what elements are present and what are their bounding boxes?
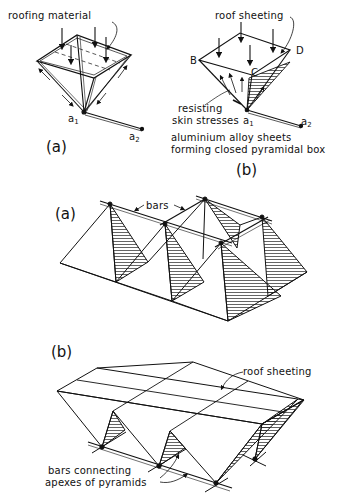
top-figure-a	[37, 22, 144, 131]
point-a1-label-b: a1	[243, 115, 254, 128]
vertex-d-label: D	[296, 45, 304, 56]
description-line1: aluminium alloy sheets	[171, 132, 291, 143]
caption-middle-a: (a)	[55, 205, 76, 223]
caption-bottom-b: (b)	[51, 343, 72, 361]
roof-sheeting-label-bottom: roof sheeting	[243, 366, 312, 377]
vertex-b-label: B	[190, 55, 197, 66]
resisting-label-line1: resisting	[178, 103, 222, 114]
bars-connecting-label-line1: bars connecting	[48, 465, 131, 476]
point-a2-label: a2	[129, 131, 140, 144]
roofing-material-label: roofing material	[8, 10, 91, 21]
caption-top-b: (b)	[236, 161, 257, 179]
description-line2: forming closed pyramidal box	[171, 144, 325, 155]
bars-connecting-label-line2: apexes of pyramids	[45, 477, 147, 488]
pyramid-roof-diagram: roofing material a1 a2 (a) roof sheeting…	[0, 0, 342, 503]
caption-top-a: (a)	[46, 138, 67, 156]
vertex-c-label: C	[251, 67, 258, 78]
resisting-label-line2: skin stresses	[172, 115, 239, 126]
roof-sheeting-label-top: roof sheeting	[215, 10, 284, 21]
bars-label: bars	[146, 200, 169, 211]
middle-figure	[60, 196, 307, 321]
point-a1-label: a1	[68, 113, 79, 126]
